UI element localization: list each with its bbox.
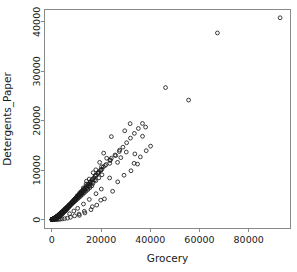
data-point [95,203,99,207]
scatter-plot-container: 010000200003000040000 020000400006000080… [0,0,297,272]
data-point [149,144,153,148]
data-point [100,173,104,177]
data-point [98,160,102,164]
data-point [99,198,103,202]
data-point [116,180,120,184]
y-tick-label: 40000 [31,7,42,37]
data-point [76,206,80,210]
x-axis-title: Grocery [147,252,188,264]
y-tick-label: 10000 [31,155,42,185]
data-point [129,169,133,173]
data-point [72,209,76,213]
y-tick-label: 20000 [31,106,42,136]
data-point [138,155,142,159]
data-point [187,98,191,102]
data-point [132,131,136,135]
y-axis-title: Detergents_Paper [1,72,14,166]
data-point [128,122,132,126]
x-tick-label: 20000 [86,234,116,245]
data-point [109,135,113,139]
data-point [278,16,282,20]
y-tick-label: 0 [31,217,42,223]
data-point [129,136,133,140]
x-tick-label: 0 [49,234,55,245]
data-point [164,86,168,90]
data-point [123,129,127,133]
data-point [121,145,125,149]
data-point [144,125,148,129]
x-axis-ticks: 020000400006000080000 [49,229,264,245]
x-tick-label: 80000 [234,234,264,245]
data-point [124,150,128,154]
x-tick-label: 40000 [135,234,165,245]
y-tick-label: 30000 [31,56,42,86]
data-point [125,141,129,145]
data-point [141,122,145,126]
data-point [216,31,220,35]
data-point [111,189,115,193]
data-point [122,173,126,177]
data-point [103,197,107,201]
data-point [82,202,86,206]
x-tick-label: 60000 [184,234,214,245]
data-point [102,151,106,155]
data-points-group [50,16,282,222]
scatter-plot-svg: 010000200003000040000 020000400006000080… [0,0,297,272]
data-point [141,134,145,138]
data-point [144,149,148,153]
data-point [99,187,103,191]
data-point [136,127,140,131]
data-point [133,152,137,156]
y-axis-ticks: 010000200003000040000 [31,7,45,223]
data-point [119,156,123,160]
data-point [108,176,112,180]
data-point [94,192,98,196]
data-point [87,198,91,202]
data-point [73,214,77,218]
data-point [116,160,120,164]
